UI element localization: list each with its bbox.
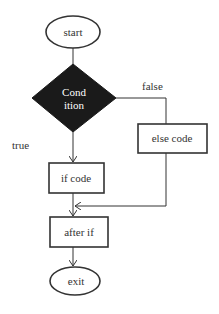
if-code-node: if code xyxy=(49,163,104,193)
else-code-label: else code xyxy=(152,132,193,144)
if-code-label: if code xyxy=(61,172,91,184)
condition-label-line2: ition xyxy=(64,99,85,111)
start-label: start xyxy=(64,26,83,38)
after-if-node: after if xyxy=(50,217,108,247)
else-code-node: else code xyxy=(138,124,207,153)
true-label: true xyxy=(12,139,29,151)
condition-label-line1: Cond xyxy=(62,86,86,98)
condition-node: Cond ition xyxy=(32,64,116,132)
exit-node: exit xyxy=(50,267,100,295)
flowchart: start Cond ition false true else code if… xyxy=(0,0,219,314)
edge-condition-else xyxy=(116,98,166,124)
false-label: false xyxy=(142,80,163,92)
exit-label: exit xyxy=(68,275,85,287)
after-if-label: after if xyxy=(64,226,94,238)
start-node: start xyxy=(46,16,100,48)
